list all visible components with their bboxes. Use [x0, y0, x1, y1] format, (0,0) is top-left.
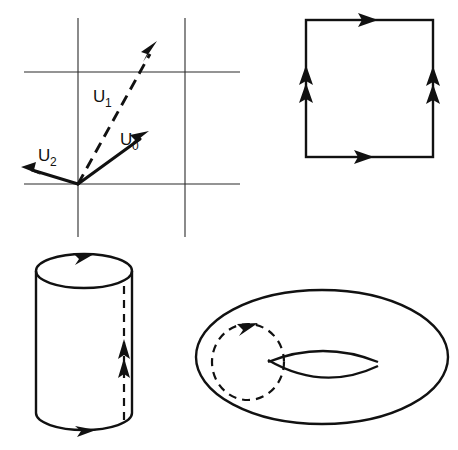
cylinder-top-rim-arrow — [73, 253, 94, 265]
cylinder-bottom-rim — [36, 413, 132, 430]
topology-figure-svg: U 1 U 0 U 2 — [0, 0, 458, 450]
vector-u1-arrowhead — [141, 41, 157, 62]
vector-basis-diagram: U 1 U 0 U 2 — [21, 18, 240, 237]
cylinder-bottom-rim-arrow — [75, 426, 96, 437]
figure-canvas: U 1 U 0 U 2 — [0, 0, 458, 450]
torus-meridian-arrow — [237, 323, 258, 336]
grid-lines — [24, 18, 240, 237]
vector-u2-label: U — [38, 146, 50, 165]
square-outline — [306, 20, 433, 157]
square-identification-diagram — [299, 13, 440, 164]
vector-u0-label: U — [120, 130, 132, 149]
cylinder-diagram — [36, 253, 132, 437]
torus-diagram — [196, 290, 448, 424]
torus-outer-boundary — [196, 290, 448, 424]
vector-u1-label-subscript: 1 — [105, 96, 112, 110]
vector-u2-label-subscript: 2 — [50, 155, 57, 169]
vector-u1 — [78, 41, 157, 184]
vector-u2-shaft — [32, 170, 78, 184]
vector-u1-label: U — [93, 87, 105, 106]
vector-u0-label-subscript: 0 — [132, 139, 139, 153]
vector-u1-shaft — [78, 54, 150, 184]
